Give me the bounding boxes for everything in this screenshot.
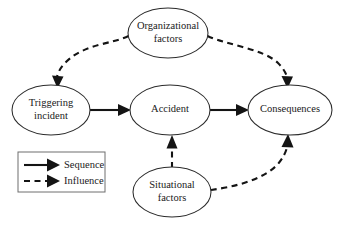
arrow-head-icon [118,104,131,116]
legend-influence-label: Influence [64,175,104,186]
arrow-head-icon [236,104,249,116]
node-organizational-factors[interactable]: Organizational factors [128,8,208,58]
arrow-head-icon [167,135,178,149]
edge-situational-to-accident [167,135,178,168]
edge-situational-to-consequences [211,134,294,190]
node-accident[interactable]: Accident [130,85,210,135]
edge-triggering-to-accident [90,104,131,116]
edge-situational-to-consequences-line [211,147,287,190]
node-organizational-factors-label-line2: factors [154,33,183,44]
arrow-head-icon [282,134,294,148]
edge-accident-to-consequences [210,104,249,116]
node-triggering-incident-label-line2: incident [34,110,68,121]
edge-organizational-to-consequences-line [208,36,288,77]
node-situational-factors[interactable]: Situational factors [133,167,211,217]
node-triggering-incident-label-line1: Triggering [29,97,74,108]
node-situational-factors-label-line2: factors [158,192,187,203]
edge-organizational-to-consequences [208,36,294,89]
legend: Sequence Influence [18,152,105,192]
edge-organizational-to-triggering-line [57,36,129,77]
node-triggering-incident[interactable]: Triggering incident [12,85,90,135]
legend-sequence-label: Sequence [64,159,105,170]
diagram-canvas: Organizational factors Triggering incide… [0,0,345,230]
node-consequences[interactable]: Consequences [248,85,332,135]
accident-causation-diagram: Organizational factors Triggering incide… [0,0,345,230]
node-accident-label: Accident [151,103,189,114]
node-organizational-factors-label-line1: Organizational [137,20,199,31]
node-situational-factors-label-line1: Situational [149,179,195,190]
edge-organizational-to-triggering [52,36,129,89]
node-consequences-label: Consequences [260,103,320,114]
